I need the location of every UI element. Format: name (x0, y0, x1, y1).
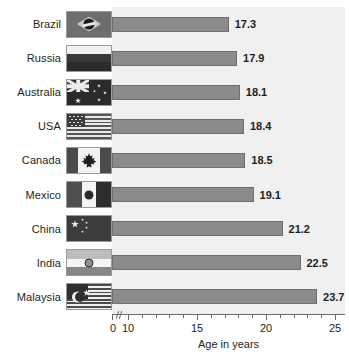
category-label-mexico: Mexico (26, 189, 66, 201)
bar-australia (112, 85, 240, 100)
x-axis-tick-label: 10 (122, 322, 134, 334)
x-axis: 0 10152025 Age in years (112, 314, 345, 358)
bar-row-india: 22.5 (112, 246, 345, 280)
category-label-russia: Russia (27, 52, 66, 64)
bar-value-russia: 17.9 (243, 52, 264, 64)
flag-malaysia-icon (66, 283, 112, 310)
category-label-india: India (37, 257, 66, 269)
category-row: Mexico (0, 178, 112, 212)
bar-row-malaysia: 23.7 (112, 280, 345, 314)
bar-row-australia: 18.1 (112, 75, 345, 109)
bar-row-brazil: 17.3 (112, 7, 345, 41)
category-row: India (0, 246, 112, 280)
category-label-canada: Canada (22, 154, 66, 166)
x-axis-tick (252, 314, 253, 318)
category-axis: Brazil Russia Australia (0, 7, 112, 314)
category-row: Brazil (0, 7, 112, 41)
x-axis-tick (238, 314, 239, 318)
x-axis-tick (156, 314, 157, 318)
bar-china (112, 221, 283, 236)
bar-russia (112, 51, 237, 66)
x-axis-origin-tick (112, 314, 113, 320)
category-label-china: China (32, 223, 66, 235)
flag-india-icon (66, 249, 112, 276)
flag-mexico-icon (66, 181, 112, 208)
category-label-usa: USA (38, 120, 66, 132)
category-label-malaysia: Malaysia (17, 291, 66, 303)
x-axis-tick (197, 314, 198, 320)
bar-value-india: 22.5 (307, 257, 328, 269)
flag-brazil-icon (66, 11, 112, 38)
category-row: Malaysia (0, 280, 112, 314)
x-axis-tick (128, 314, 129, 320)
category-row: China (0, 212, 112, 246)
x-axis-tick (335, 314, 336, 320)
x-axis-tick-label: 15 (191, 322, 203, 334)
x-axis-tick (169, 314, 170, 318)
bar-row-canada: 18.5 (112, 143, 345, 177)
bar-row-russia: 17.9 (112, 41, 345, 75)
bar-series: 17.3 17.9 18.1 18.4 18.5 19.1 (112, 7, 345, 314)
x-axis-tick (142, 314, 143, 318)
bar-row-china: 21.2 (112, 212, 345, 246)
bar-usa (112, 119, 244, 134)
category-row: Russia (0, 41, 112, 75)
category-row: USA (0, 109, 112, 143)
x-axis-line (112, 314, 345, 315)
flag-china-icon (66, 215, 112, 242)
category-label-australia: Australia (17, 86, 66, 98)
x-axis-tick (321, 314, 322, 318)
bar-value-brazil: 17.3 (235, 18, 256, 30)
x-axis-tick (294, 314, 295, 318)
category-row: Australia (0, 75, 112, 109)
flag-usa-icon (66, 113, 112, 140)
category-label-brazil: Brazil (33, 18, 66, 30)
x-axis-origin-label: 0 (110, 322, 116, 334)
x-axis-tick (211, 314, 212, 318)
bar-row-mexico: 19.1 (112, 178, 345, 212)
x-axis-tick (280, 314, 281, 318)
bar-brazil (112, 17, 229, 32)
bar-value-china: 21.2 (289, 223, 310, 235)
bar-value-mexico: 19.1 (260, 189, 281, 201)
bar-value-usa: 18.4 (250, 120, 271, 132)
bar-mexico (112, 187, 254, 202)
x-axis-tick (225, 314, 226, 318)
x-axis-title: Age in years (112, 338, 345, 350)
bar-canada (112, 153, 245, 168)
plot-area: 17.3 17.9 18.1 18.4 18.5 19.1 (112, 7, 345, 314)
x-axis-tick (307, 314, 308, 318)
x-axis-tick-label: 25 (329, 322, 341, 334)
bar-value-canada: 18.5 (251, 154, 272, 166)
category-row: Canada (0, 143, 112, 177)
x-axis-tick (183, 314, 184, 318)
bar-malaysia (112, 289, 317, 304)
x-axis-tick (266, 314, 267, 320)
flag-australia-icon (66, 79, 112, 106)
x-axis-tick-label: 20 (260, 322, 272, 334)
bar-chart: Brazil Russia Australia (0, 0, 349, 358)
flag-canada-icon (66, 147, 112, 174)
flag-russia-icon (66, 45, 112, 72)
bar-row-usa: 18.4 (112, 109, 345, 143)
bar-value-malaysia: 23.7 (323, 291, 344, 303)
bar-value-australia: 18.1 (246, 86, 267, 98)
bar-india (112, 255, 301, 270)
axis-break-icon (116, 311, 123, 319)
